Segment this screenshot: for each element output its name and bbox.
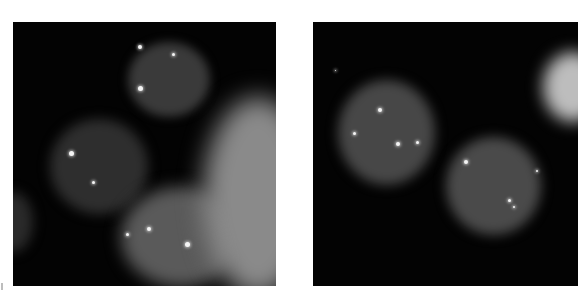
fish-signal-spot	[69, 151, 74, 156]
nucleus	[446, 137, 541, 235]
fish-signal-spot	[513, 206, 515, 208]
fish-signal-spot	[508, 199, 511, 202]
fish-signal-spot	[138, 86, 143, 91]
fish-signal-spot	[185, 242, 190, 247]
fish-signal-spot	[92, 181, 95, 184]
edge-artifact	[1, 283, 3, 290]
nucleus	[50, 119, 148, 214]
fish-signal-spot	[126, 233, 129, 236]
right-fish-panel	[313, 22, 578, 286]
fish-signal-spot	[536, 170, 538, 172]
fish-signal-spot	[378, 108, 382, 112]
fish-signal-spot	[416, 141, 419, 144]
left-fish-panel	[13, 22, 276, 286]
nucleus	[128, 42, 210, 117]
fish-signal-spot	[353, 132, 356, 135]
fish-signal-spot	[396, 142, 400, 146]
fish-signal-spot	[172, 53, 175, 56]
fish-signal-spot	[464, 160, 468, 164]
nucleus	[13, 192, 33, 252]
fish-signal-spot	[138, 45, 142, 49]
fish-signal-spot	[335, 70, 336, 71]
nucleus	[543, 52, 578, 122]
fish-signal-spot	[147, 227, 151, 231]
nucleus	[203, 97, 276, 286]
